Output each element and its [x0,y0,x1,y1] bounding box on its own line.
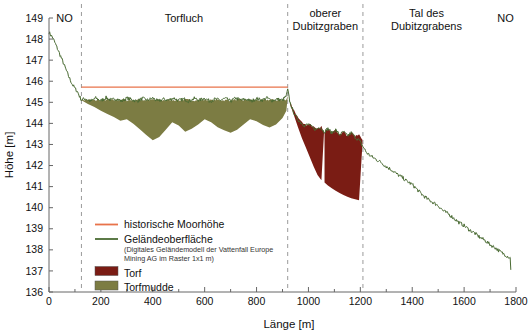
x-tick-label: 1000 [297,295,321,307]
section-label: Dubitzgrabens [391,20,462,32]
y-tick-label: 141 [25,180,43,192]
x-tick-label: 1600 [452,295,476,307]
x-tick-label: 600 [196,295,214,307]
profile-chart-svg: NOTorfluchobererDubitzgrabenTal desDubit… [0,0,529,334]
y-tick-label: 148 [25,33,43,45]
section-label: Tal des [409,7,444,19]
y-tick-label: 137 [25,265,43,277]
y-tick-label: 138 [25,243,43,255]
section-label: NO [56,12,73,24]
y-tick-label: 136 [25,286,43,298]
section-label: oberer [309,7,341,19]
section-label: Dubitzgraben [293,20,358,32]
y-tick-label: 147 [25,54,43,66]
legend-patch-swatch [95,267,118,276]
x-tick-label: 200 [92,295,110,307]
x-axis-title: Länge [m] [263,318,314,330]
y-tick-label: 149 [25,12,43,24]
y-tick-label: 146 [25,75,43,87]
plot-background [0,0,529,334]
legend-patch-swatch [95,281,118,290]
section-label: NO [497,12,514,24]
elevation-profile-figure: NOTorfluchobererDubitzgrabenTal desDubit… [0,0,529,334]
x-tick-label: 1200 [349,295,373,307]
legend-item-sublabel: Mining AG im Raster 1x1 m) [124,254,214,263]
x-tick-label: 0 [46,295,52,307]
x-tick-label: 1800 [504,295,528,307]
x-tick-label: 800 [248,295,266,307]
y-tick-label: 140 [25,201,43,213]
section-label: Torfluch [165,12,204,24]
legend-item-label: Geländeoberfläche [124,233,213,245]
legend-item-label: Torfmudde [124,281,174,293]
x-tick-label: 400 [144,295,162,307]
y-tick-label: 144 [25,117,43,129]
legend-item-label: historische Moorhöhe [124,218,225,230]
x-tick-label: 1400 [401,295,425,307]
y-tick-label: 145 [25,96,43,108]
y-tick-label: 143 [25,138,43,150]
y-axis-title: Höhe [m] [3,132,15,179]
legend-item-label: Torf [124,267,142,279]
y-tick-label: 139 [25,222,43,234]
y-tick-label: 142 [25,159,43,171]
